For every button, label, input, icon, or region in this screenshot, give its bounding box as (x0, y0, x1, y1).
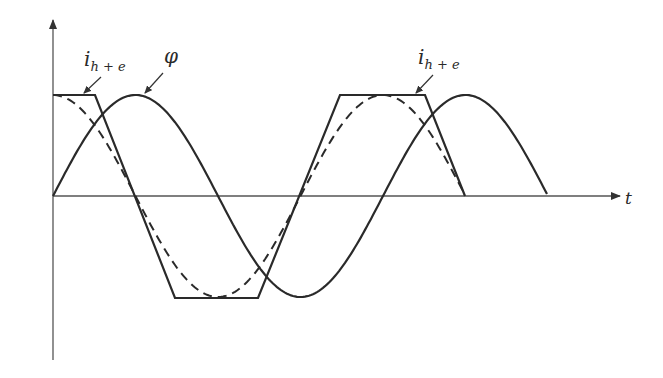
current-label-1: ih + e (84, 47, 126, 74)
current-label-2-leader-arrow (416, 75, 433, 93)
flux-label: φ (164, 44, 178, 68)
current-label-2: ih + e (418, 45, 460, 72)
current-label-1-leader-arrow (84, 77, 101, 93)
time-axis-label: t (625, 188, 632, 208)
flux-label-leader-arrow (145, 73, 163, 93)
waveform-diagram: t ih + e φ ih + e (0, 0, 663, 378)
